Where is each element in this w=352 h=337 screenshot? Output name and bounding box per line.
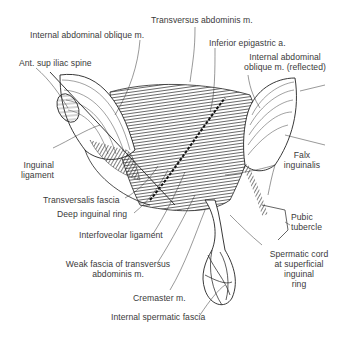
label-line-4: ring: [258, 279, 340, 289]
label-falx-inguinalis: Falx inguinalis: [277, 150, 327, 170]
label-line-2: abdominis m.: [58, 269, 178, 279]
label-internal-spermatic-fascia: Internal spermatic fascia: [111, 312, 205, 322]
label-inguinal-ligament: Inguinal ligament: [20, 160, 54, 180]
label-spermatic-cord: Spermatic cord at superficial inguinal r…: [258, 249, 340, 289]
label-line-1: Falx: [277, 150, 327, 160]
label-ant-sup-iliac-spine: Ant. sup iliac spine: [19, 58, 92, 68]
label-line-1: Internal abdominal: [230, 52, 340, 62]
label-line-2: at superficial: [258, 259, 340, 269]
label-line-1: Weak fascia of transversus: [58, 259, 178, 269]
label-pubic-tubercle: Pubic tubercle: [291, 212, 322, 232]
label-line-2: inguinalis: [277, 160, 327, 170]
anatomy-figure: Transversus abdominis m. Internal abdomi…: [0, 0, 352, 337]
label-cremaster: Cremaster m.: [133, 293, 186, 303]
label-line-2: oblique m. (reflected): [230, 62, 340, 72]
label-line-2: tubercle: [291, 222, 322, 232]
label-line-1: Inguinal: [20, 160, 54, 170]
label-deep-inguinal-ring: Deep inguinal ring: [57, 209, 127, 219]
label-transversalis-fascia: Transversalis fascia: [43, 195, 120, 205]
label-line-1: Pubic: [291, 212, 322, 222]
label-interfoveolar-ligament: Interfoveolar ligament: [79, 230, 163, 240]
label-line-2: ligament: [20, 170, 54, 180]
label-line-1: Spermatic cord: [258, 249, 340, 259]
label-internal-oblique: Internal abdominal oblique m.: [30, 30, 144, 40]
label-transversus-abdominis: Transversus abdominis m.: [151, 15, 253, 25]
label-weak-fascia: Weak fascia of transversus abdominis m.: [58, 259, 178, 279]
label-inferior-epigastric: Inferior epigastric a.: [209, 38, 286, 48]
label-line-3: inguinal: [258, 269, 340, 279]
label-internal-oblique-reflected: Internal abdominal oblique m. (reflected…: [230, 52, 340, 72]
